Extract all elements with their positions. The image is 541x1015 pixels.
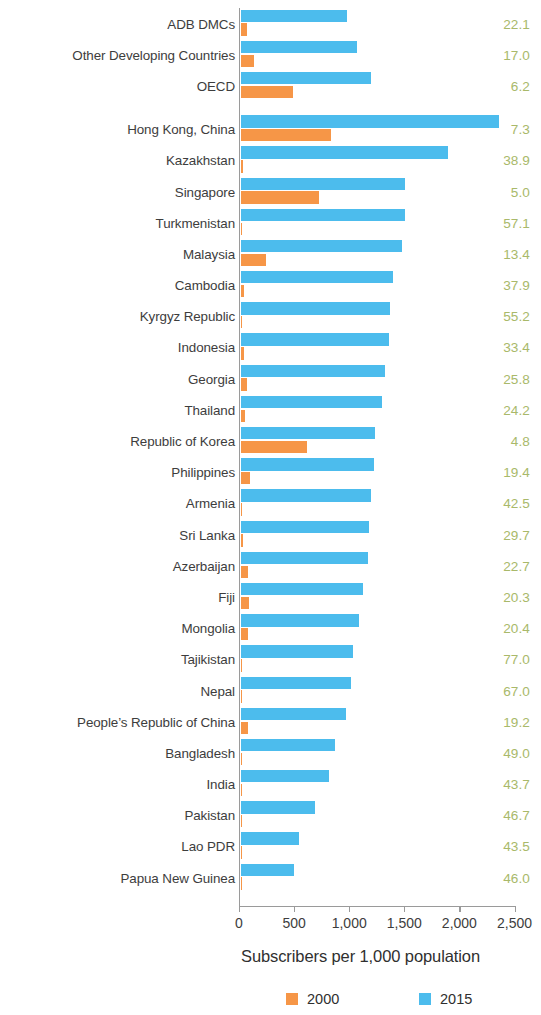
bar-2015 — [241, 583, 364, 595]
bar-2015 — [241, 521, 369, 533]
bar-row: Mongolia20.4 — [0, 613, 541, 644]
bar-2000 — [241, 223, 242, 235]
row-value: 5.0 — [478, 184, 530, 199]
bar-2000 — [241, 86, 294, 98]
bar-row: Nepal67.0 — [0, 675, 541, 706]
bar-2000 — [241, 472, 251, 484]
bar-row: Other Developing Countries17.0 — [0, 39, 541, 70]
bar-row: Singapore5.0 — [0, 176, 541, 207]
bar-row: Malaysia13.4 — [0, 238, 541, 269]
bar-2015 — [241, 801, 315, 813]
category-label: Indonesia — [178, 340, 235, 355]
category-label: Republic of Korea — [130, 434, 235, 449]
x-axis-tick-label: 1,500 — [387, 915, 422, 931]
bar-row: People’s Republic of China19.2 — [0, 706, 541, 737]
category-label: Tajikistan — [181, 652, 235, 667]
x-axis-tick-label: 0 — [235, 915, 243, 931]
bar-row: Thailand24.2 — [0, 394, 541, 425]
category-label: Lao PDR — [181, 839, 235, 854]
legend-swatch-icon — [286, 993, 298, 1005]
bar-row: Republic of Korea4.8 — [0, 425, 541, 456]
bar-2000 — [241, 877, 242, 889]
bar-row: Kazakhstan38.9 — [0, 145, 541, 176]
row-value: 24.2 — [478, 402, 530, 417]
bar-2015 — [241, 645, 354, 657]
bar-row: Lao PDR43.5 — [0, 831, 541, 862]
bar-2015 — [241, 146, 448, 158]
bar-2000 — [241, 254, 266, 266]
category-label: Papua New Guinea — [120, 870, 235, 885]
bar-row: Tajikistan77.0 — [0, 644, 541, 675]
bar-2000 — [241, 191, 319, 203]
bar-2015 — [241, 115, 500, 127]
bar-2015 — [241, 72, 371, 84]
bar-2015 — [241, 458, 375, 470]
row-value: 37.9 — [478, 278, 530, 293]
category-label: Singapore — [175, 184, 235, 199]
category-label: India — [206, 777, 235, 792]
category-label: Bangladesh — [165, 745, 235, 760]
category-label: Sri Lanka — [179, 527, 235, 542]
row-value: 13.4 — [478, 246, 530, 261]
x-axis-tick — [459, 906, 460, 912]
category-label: OECD — [197, 78, 235, 93]
x-axis-tick-label: 2,000 — [442, 915, 477, 931]
legend-item-2000[interactable]: 2000 — [286, 991, 339, 1007]
bar-2000 — [241, 503, 243, 515]
x-axis-title: Subscribers per 1,000 population — [0, 947, 541, 966]
bar-row: Bangladesh49.0 — [0, 737, 541, 768]
bar-2000 — [241, 722, 248, 734]
bar-row: India43.7 — [0, 769, 541, 800]
bar-row: ADB DMCs22.1 — [0, 8, 541, 39]
bar-row: Cambodia37.9 — [0, 270, 541, 301]
bar-2000 — [241, 659, 242, 671]
bar-row: Georgia25.8 — [0, 363, 541, 394]
bar-2015 — [241, 708, 347, 720]
category-label: Malaysia — [183, 246, 235, 261]
bar-rows: ADB DMCs22.1Other Developing Countries17… — [0, 8, 541, 893]
row-value: 49.0 — [478, 745, 530, 760]
bar-2015 — [241, 770, 330, 782]
legend-label: 2015 — [440, 991, 472, 1007]
bar-2015 — [241, 832, 300, 844]
row-value: 22.7 — [478, 558, 530, 573]
bar-row: Papua New Guinea46.0 — [0, 862, 541, 893]
category-label: ADB DMCs — [167, 16, 235, 31]
category-label: Turkmenistan — [156, 215, 235, 230]
legend-swatch-icon — [419, 993, 431, 1005]
legend-item-2015[interactable]: 2015 — [419, 991, 472, 1007]
bar-row: Hong Kong, China7.3 — [0, 114, 541, 145]
bar-row: Azerbaijan22.7 — [0, 550, 541, 581]
bar-2000 — [241, 347, 245, 359]
bar-row: Philippines19.4 — [0, 457, 541, 488]
x-axis-tick — [515, 906, 516, 912]
plot-area: ADB DMCs22.1Other Developing Countries17… — [0, 0, 541, 906]
x-axis-tick — [404, 906, 405, 912]
row-value: 57.1 — [478, 215, 530, 230]
bar-2015 — [241, 209, 405, 221]
x-axis-tick-label: 500 — [282, 915, 305, 931]
bar-2015 — [241, 365, 385, 377]
row-value: 20.4 — [478, 621, 530, 636]
bar-row: Pakistan46.7 — [0, 800, 541, 831]
bar-2015 — [241, 240, 403, 252]
bar-2015 — [241, 427, 376, 439]
bar-2000 — [241, 316, 242, 328]
bar-2000 — [241, 378, 247, 390]
category-label: Nepal — [201, 683, 236, 698]
bar-2015 — [241, 271, 394, 283]
bar-2015 — [241, 677, 351, 689]
x-axis-title-text: Subscribers per 1,000 population — [61, 947, 480, 966]
bar-row: Indonesia33.4 — [0, 332, 541, 363]
row-value: 77.0 — [478, 652, 530, 667]
category-label: Armenia — [186, 496, 235, 511]
bar-2000 — [241, 753, 242, 765]
row-value: 43.5 — [478, 839, 530, 854]
bar-2015 — [241, 333, 390, 345]
bar-2000 — [241, 23, 248, 35]
x-axis-tick — [349, 906, 350, 912]
bar-row: OECD6.2 — [0, 70, 541, 101]
row-value: 67.0 — [478, 683, 530, 698]
bar-2015 — [241, 41, 358, 53]
row-value: 55.2 — [478, 309, 530, 324]
